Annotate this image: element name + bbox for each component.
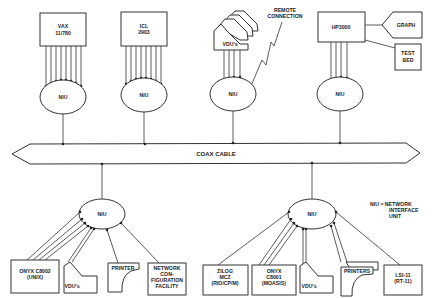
lsi-os-label: (RT-11): [394, 278, 412, 284]
bottom-left-group: NIU ONYX C8002 (UNIX) VDU's PRINTER NETW…: [11, 163, 186, 295]
graph-label: GRAPH: [397, 22, 416, 28]
hp-host-group: HP3000 GRAPH TEST BED NIU: [317, 12, 422, 144]
legend-line-3: UNIT: [389, 213, 402, 219]
legend: NIU = NETWORK INTERFACE UNIT: [370, 201, 419, 219]
icl-niu-label: NIU: [140, 92, 149, 98]
vax-model-label: 11/780: [55, 30, 71, 36]
test-bed-label: TEST: [401, 50, 415, 56]
ncf-label-4: FACILITY: [155, 283, 179, 289]
vax-host-group: VAX 11/780 NIU: [40, 13, 86, 145]
remote-connection-link: [251, 22, 282, 86]
onyx-c8002-os-label: (UNIX): [27, 274, 43, 280]
vax-label: VAX: [58, 23, 69, 29]
network-diagram: COAX CABLE VAX 11/780 NIU ICL 2903: [0, 0, 436, 298]
zilog-os-label: (RIO/CP/M): [211, 280, 238, 286]
bottom-right-group: NIU ZILOG MCZ (RIO/CP/M) ONYX C8001 (MOA…: [203, 162, 422, 296]
vdu-host-group: VDU's REMOTE CONNECTION NIU: [210, 7, 303, 144]
hp3000-label: HP3000: [332, 24, 351, 30]
vdu-niu-label: NIU: [229, 91, 238, 97]
printer-left-label: PRINTER: [112, 265, 135, 271]
vdus-right-label: VDU's: [301, 283, 316, 289]
onyx-c8001-os-label: (MOASIS): [262, 280, 286, 286]
icl-model-label: 2903: [138, 29, 150, 35]
vdus-left-label: VDU's: [64, 283, 79, 289]
coax-cable-label: COAX CABLE: [196, 151, 236, 157]
bottom-left-niu-label: NIU: [98, 211, 107, 217]
hp-niu-label: NIU: [336, 91, 345, 97]
remote-connection-label-2: CONNECTION: [268, 13, 303, 19]
vdu-label: VDU's: [222, 41, 237, 47]
coax-cable: COAX CABLE: [12, 143, 420, 164]
vax-niu-label: NIU: [59, 94, 68, 100]
printers-right-label: PRINTERS: [344, 268, 371, 274]
test-bed-label-2: BED: [403, 57, 414, 63]
icl-host-group: ICL 2903 NIU: [121, 12, 167, 145]
bottom-right-niu-label: NIU: [308, 211, 317, 217]
